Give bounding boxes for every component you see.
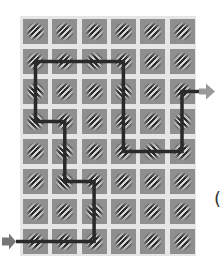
entry-arrow-icon [2, 234, 16, 250]
snake-path [16, 62, 201, 242]
panel-label-partial: ( [214, 188, 221, 209]
exit-arrow-icon [199, 84, 215, 100]
path-overlay [0, 0, 224, 269]
